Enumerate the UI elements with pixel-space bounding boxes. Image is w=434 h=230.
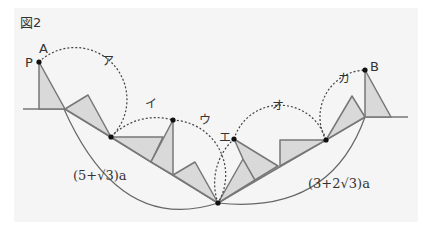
point-3: [323, 137, 328, 142]
triangle-5: [173, 162, 218, 203]
point-1: [108, 134, 113, 139]
left-length-arc: [64, 109, 218, 209]
arc-label-ka: カ: [338, 72, 350, 86]
point-p: [36, 59, 41, 64]
point-2: [170, 117, 175, 122]
point-b: [362, 67, 367, 72]
triangle-1: [39, 62, 65, 109]
arc-i: [111, 118, 173, 137]
arc-label-i: イ: [145, 97, 157, 111]
length-label-right: (3+2√3)a: [308, 176, 370, 191]
arc-label-u: ウ: [199, 113, 211, 127]
arc-label-o: オ: [272, 99, 284, 113]
figure-title: 図2: [20, 15, 41, 30]
triangle-2: [65, 95, 111, 137]
point-bottom: [215, 200, 220, 205]
triangle-9: [326, 96, 365, 140]
label-a: A: [39, 41, 48, 56]
triangle-8: [280, 140, 326, 166]
diagram: 図2 P A B: [0, 0, 434, 230]
triangle-10: [365, 70, 391, 117]
arc-label-a: ア: [102, 54, 114, 68]
point-e: [231, 136, 236, 141]
label-b: B: [370, 59, 379, 74]
length-label-left: (5+√3)a: [73, 168, 127, 183]
arc-label-e: エ: [219, 131, 231, 145]
label-p: P: [25, 55, 33, 70]
